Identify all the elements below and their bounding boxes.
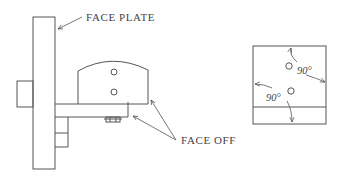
nut-icon: [104, 117, 122, 122]
face-plate: [33, 17, 55, 169]
angle-arrow-lower-down: [287, 101, 292, 122]
end-view: 90° 90°: [253, 46, 326, 124]
face-off-leader-lower: [133, 116, 176, 140]
end-hole-upper: [286, 63, 292, 69]
face-off-leader-upper: [151, 100, 176, 140]
angle-label-lower: 90°: [266, 92, 282, 103]
side-view: FACE PLATE FACE OFF: [17, 11, 236, 169]
hole-upper: [111, 69, 117, 75]
face-plate-label: FACE PLATE: [86, 11, 155, 23]
hole-lower: [111, 89, 117, 95]
face-off-label: FACE OFF: [181, 134, 236, 146]
angle-arrow-lower-left: [255, 84, 272, 88]
angle-arrow-upper-right: [306, 75, 325, 82]
left-tab: [17, 81, 33, 107]
curved-block: [78, 61, 148, 104]
end-hole-lower: [288, 88, 294, 94]
technical-drawing: FACE PLATE FACE OFF 90° 90°: [0, 0, 344, 178]
bracket-leg: [55, 117, 68, 147]
face-plate-leader: [58, 17, 82, 29]
angle-label-upper: 90°: [297, 65, 313, 76]
angle-arrow-upper: [291, 48, 297, 62]
